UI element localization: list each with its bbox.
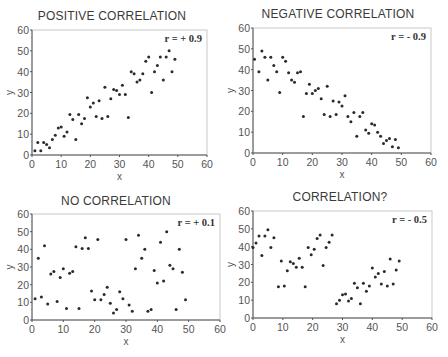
data-point (71, 118, 74, 121)
data-point (263, 56, 266, 59)
data-point (296, 71, 299, 74)
data-point (130, 70, 133, 73)
data-point (385, 139, 388, 142)
y-tick-label: 40 (238, 64, 250, 76)
data-point (293, 81, 296, 84)
data-point (109, 97, 112, 100)
data-point (305, 92, 308, 95)
y-tick-label: 0 (23, 149, 29, 161)
data-point (335, 302, 338, 305)
data-point (84, 236, 87, 239)
data-point (81, 247, 84, 250)
y-tick-label: 0 (244, 147, 250, 159)
x-tick-label: 40 (366, 156, 378, 168)
data-point (66, 131, 69, 134)
y-tick-label: 20 (17, 107, 29, 119)
data-point (98, 99, 101, 102)
data-point (156, 281, 159, 284)
data-point (349, 120, 352, 123)
data-point (150, 308, 153, 311)
data-point (83, 117, 86, 120)
x-tick-label: 10 (55, 158, 67, 170)
data-point (368, 284, 371, 287)
data-point (93, 298, 96, 301)
data-point (388, 137, 391, 140)
data-point (335, 113, 338, 116)
data-point (301, 266, 304, 269)
data-point (370, 122, 373, 125)
data-point (361, 111, 364, 114)
data-point (172, 267, 175, 270)
data-point (92, 101, 95, 104)
x-tick-label: 60 (214, 323, 226, 335)
correlation-coefficient-label: r = + 0.1 (178, 217, 215, 228)
data-point (377, 272, 380, 275)
x-tick-label: 40 (143, 158, 155, 170)
data-point (258, 235, 261, 238)
data-point (329, 115, 332, 118)
data-point (40, 296, 43, 299)
plot-frame (253, 211, 432, 318)
data-point (373, 123, 376, 126)
data-point (48, 146, 51, 149)
data-point (144, 60, 147, 63)
data-point (352, 111, 355, 114)
data-point (68, 113, 71, 116)
data-point (90, 289, 93, 292)
data-point (57, 126, 60, 129)
data-point (43, 244, 46, 247)
x-tick-label: 30 (336, 156, 348, 168)
y-tick-label: 10 (238, 294, 250, 306)
x-tick-label: 0 (250, 156, 256, 168)
data-point (379, 135, 382, 138)
data-point (278, 91, 281, 94)
data-point (365, 290, 368, 293)
charts-canvas: POSITIVE CORRELATION01020304050600102030… (0, 0, 448, 357)
data-point (269, 56, 272, 59)
data-point (103, 293, 106, 296)
data-point (184, 298, 187, 301)
data-point (74, 245, 77, 248)
x-tick-label: 50 (395, 156, 407, 168)
data-point (307, 246, 310, 249)
data-point (87, 247, 90, 250)
data-point (74, 138, 77, 141)
data-point (362, 282, 365, 285)
data-point (175, 308, 178, 311)
data-point (51, 138, 54, 141)
correlation-coefficient-label: r = + 0.9 (165, 33, 202, 44)
x-axis-label: x (124, 336, 129, 347)
data-point (101, 117, 104, 120)
data-point (146, 310, 149, 313)
data-point (127, 116, 130, 119)
x-tick-label: 30 (114, 158, 126, 170)
data-point (355, 135, 358, 138)
y-tick-label: 30 (238, 85, 250, 97)
y-tick-label: 30 (238, 259, 250, 271)
data-point (121, 297, 124, 300)
data-point (156, 64, 159, 67)
data-point (283, 284, 286, 287)
data-point (358, 115, 361, 118)
data-point (328, 241, 331, 244)
chart-title-none: NO CORRELATION (61, 194, 171, 208)
data-point (350, 297, 353, 300)
data-point (56, 300, 59, 303)
data-point (317, 87, 320, 90)
data-point (389, 258, 392, 261)
data-point (59, 276, 62, 279)
data-point (298, 257, 301, 260)
data-point (115, 89, 118, 92)
y-tick-label: 60 (238, 22, 250, 34)
data-point (382, 142, 385, 145)
data-point (394, 138, 397, 141)
data-point (341, 293, 344, 296)
data-point (138, 79, 141, 82)
data-point (313, 248, 316, 251)
data-point (37, 257, 40, 260)
y-tick-label: 50 (17, 226, 29, 238)
data-point (86, 96, 89, 99)
y-axis-label: y (4, 265, 15, 270)
data-point (99, 298, 102, 301)
data-point (115, 308, 118, 311)
